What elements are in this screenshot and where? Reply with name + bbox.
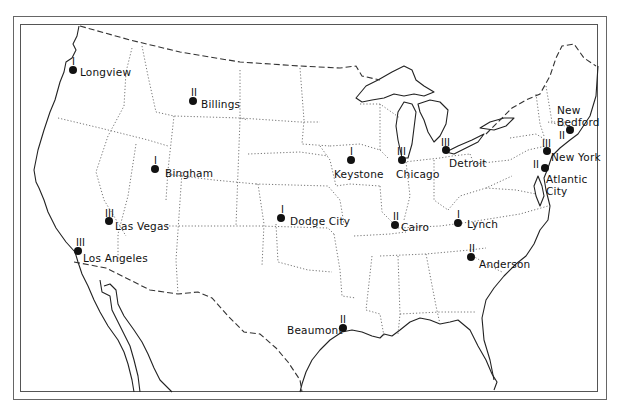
city-dot-cairo [391,221,399,229]
lake-erie [446,134,484,154]
lake-ontario [480,118,514,130]
city-label-bingham: Bingham [165,167,213,179]
city-dot-billings [189,97,197,105]
city-label-anderson: Anderson [479,258,530,270]
city-rank-keystone: I [350,147,353,157]
city-dot-dodge-city [277,214,285,222]
baja-coast [100,280,140,392]
city-dot-atlantic-city [541,164,549,172]
city-label-dodge-city: Dodge City [290,215,350,227]
city-rank-new-york: III [542,139,551,149]
city-dot-keystone [347,156,355,164]
pacific-coastline [34,26,134,392]
city-label-atlantic-city: Atlantic City [546,173,596,197]
city-rank-lynch: I [457,210,460,220]
city-dot-lynch [454,219,462,227]
city-label-longview: Longview [80,66,131,78]
city-label-chicago: Chicago [396,168,440,180]
city-label-detroit: Detroit [449,157,487,169]
city-label-lynch: Lynch [467,218,498,230]
city-label-las-vegas: Las Vegas [115,220,169,232]
city-rank-new-bedford: II [559,131,565,141]
city-rank-bingham: I [154,156,157,166]
city-label-los-angeles: Los Angeles [83,252,148,264]
city-dot-chicago [398,156,406,164]
city-rank-cairo: II [393,212,399,222]
city-rank-las-vegas: III [105,209,114,219]
city-rank-chicago: III [397,147,406,157]
city-rank-los-angeles: III [76,238,85,248]
city-label-beaumont: Beaumont [287,324,343,336]
city-rank-anderson: II [469,244,475,254]
lake-huron [418,100,448,142]
us-outline-map [0,0,619,415]
city-dot-bingham [151,165,159,173]
city-dot-los-angeles [74,247,82,255]
city-dot-longview [69,66,77,74]
city-label-new-york: New York [551,151,601,163]
lake-superior [356,66,434,102]
city-label-billings: Billings [201,98,240,110]
city-label-cairo: Cairo [401,221,429,233]
city-rank-longview: I [72,57,75,67]
chesapeake [534,176,544,206]
city-rank-dodge-city: I [281,205,284,215]
city-rank-billings: II [191,88,197,98]
city-rank-atlantic-city: II [533,160,539,170]
city-rank-detroit: III [441,138,450,148]
city-label-new-bedford: New Bedford [557,104,597,128]
city-dot-anderson [467,253,475,261]
city-label-keystone: Keystone [334,168,384,180]
